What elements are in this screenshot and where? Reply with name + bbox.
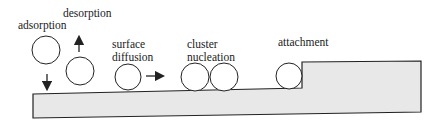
label-attachment: attachment [278,36,328,48]
desorption-atom [66,57,94,85]
label-desorption: desorption [63,7,112,19]
label-diffusion: diffusion [112,51,153,63]
cluster-atom-1 [181,63,209,91]
attachment-atom [276,63,302,89]
label-surface: surface [112,38,145,50]
diffusion-atom [115,64,141,90]
label-cluster: cluster [187,38,218,50]
cluster-atom-2 [210,63,238,91]
adsorption-atom [32,36,60,64]
label-nucleation: nucleation [187,51,235,63]
label-adsorption: adsorption [18,19,67,31]
